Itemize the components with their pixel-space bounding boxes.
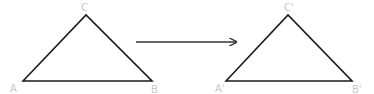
- vertex-label-c: C: [81, 2, 88, 13]
- original-triangle: A B C: [10, 2, 158, 94]
- transformation-diagram: A B C A' B' C': [0, 0, 374, 94]
- vertex-label-a-prime: A': [215, 83, 225, 94]
- vertex-label-b: B: [151, 84, 158, 94]
- vertex-label-c-prime: C': [284, 2, 294, 13]
- vertex-label-b-prime: B': [352, 84, 362, 94]
- vertex-label-a: A: [10, 83, 17, 94]
- image-triangle: A' B' C': [215, 2, 362, 94]
